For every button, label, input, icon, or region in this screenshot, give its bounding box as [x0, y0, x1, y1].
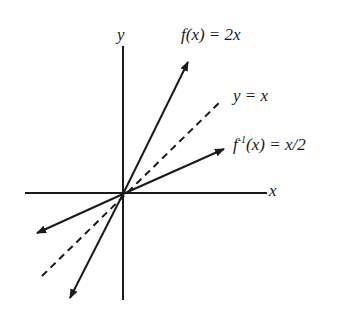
- inverse-sup: -1: [238, 134, 246, 145]
- line-f-2x: [123, 62, 188, 194]
- x-axis-label: x: [269, 181, 277, 201]
- identity-label: y = x: [233, 86, 268, 106]
- inverse-rest: (x) = x/2: [246, 135, 306, 154]
- graph-canvas: [0, 0, 363, 314]
- f-label: f(x) = 2x: [181, 25, 241, 45]
- line-identity: [42, 100, 222, 276]
- line-inverse-neg: [37, 194, 123, 233]
- line-f-2x-neg: [70, 194, 123, 298]
- inverse-label: f-1(x) = x/2: [233, 134, 306, 155]
- line-inverse: [123, 149, 224, 194]
- y-axis-label: y: [117, 25, 125, 45]
